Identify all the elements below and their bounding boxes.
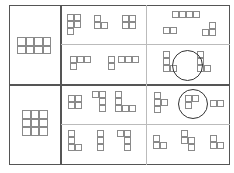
grid-cell xyxy=(154,92,161,99)
grid-cell xyxy=(160,142,167,149)
grid-cell xyxy=(188,144,195,151)
grid-cell xyxy=(186,11,193,18)
grid-cell xyxy=(124,137,131,144)
grid-cell xyxy=(31,127,40,136)
grid-cell xyxy=(97,137,104,144)
answer-circle xyxy=(172,50,203,81)
grid-cell xyxy=(77,56,84,63)
grid-cell xyxy=(34,46,43,55)
grid-cell xyxy=(108,56,115,63)
grid-cell xyxy=(115,105,122,112)
grid-cell xyxy=(97,144,104,151)
grid-cell xyxy=(210,100,217,107)
grid-cell xyxy=(67,28,74,35)
grid-cell xyxy=(70,63,77,70)
grid-cell xyxy=(202,29,209,36)
grid-cell xyxy=(68,130,75,137)
grid-cell xyxy=(97,130,104,137)
grid-cell xyxy=(75,102,82,109)
grid-cell xyxy=(193,11,200,18)
grid-cell xyxy=(99,91,106,98)
grid-cell xyxy=(84,56,91,63)
grid-cell xyxy=(125,56,132,63)
grid-cell xyxy=(22,127,31,136)
grid-cell xyxy=(39,119,48,128)
grid-cell xyxy=(34,37,43,46)
grid-cell xyxy=(39,110,48,119)
grid-cell xyxy=(217,100,224,107)
grid-cell xyxy=(92,91,99,98)
grid-cell xyxy=(74,21,81,28)
grid-cell xyxy=(26,46,35,55)
grid-cell xyxy=(68,95,75,102)
grid-cell xyxy=(94,22,101,29)
grid-cell xyxy=(210,142,217,149)
grid-cell xyxy=(99,98,106,105)
grid-cell xyxy=(101,22,108,29)
grid-cell xyxy=(170,27,177,34)
grid-cell xyxy=(68,144,75,151)
grid-cell xyxy=(117,130,124,137)
grid-cell xyxy=(163,65,170,72)
grid-cell xyxy=(129,22,136,29)
grid-cell xyxy=(204,65,211,72)
option-column-divider xyxy=(146,5,147,165)
grid-cell xyxy=(22,110,31,119)
grid-cell xyxy=(181,137,188,144)
grid-cell xyxy=(17,37,26,46)
grid-cell xyxy=(67,21,74,28)
grid-cell xyxy=(43,46,52,55)
grid-cell xyxy=(163,51,170,58)
grid-cell xyxy=(118,56,125,63)
grid-cell xyxy=(108,63,115,70)
grid-cell xyxy=(22,119,31,128)
grid-cell xyxy=(43,37,52,46)
grid-cell xyxy=(115,91,122,98)
grid-cell xyxy=(163,27,170,34)
grid-cell xyxy=(31,119,40,128)
grid-cell xyxy=(181,130,188,137)
grid-cell xyxy=(94,15,101,22)
grid-cell xyxy=(74,14,81,21)
grid-cell xyxy=(122,22,129,29)
grid-cell xyxy=(67,14,74,21)
grid-cell xyxy=(68,137,75,144)
grid-cell xyxy=(129,105,136,112)
grid-cell xyxy=(122,105,129,112)
bottom-subrow-divider xyxy=(61,124,230,125)
grid-cell xyxy=(124,144,131,151)
grid-cell xyxy=(217,142,224,149)
grid-cell xyxy=(39,127,48,136)
grid-cell xyxy=(99,105,106,112)
grid-cell xyxy=(209,29,216,36)
grid-cell xyxy=(188,137,195,144)
grid-cell xyxy=(17,46,26,55)
grid-cell xyxy=(75,95,82,102)
grid-cell xyxy=(209,22,216,29)
grid-cell xyxy=(153,142,160,149)
grid-cell xyxy=(153,135,160,142)
grid-cell xyxy=(31,110,40,119)
grid-cell xyxy=(172,11,179,18)
grid-cell xyxy=(210,135,217,142)
grid-cell xyxy=(68,102,75,109)
answer-circle xyxy=(178,89,208,119)
grid-cell xyxy=(161,99,168,106)
grid-cell xyxy=(115,98,122,105)
grid-cell xyxy=(132,56,139,63)
reference-column-divider xyxy=(60,5,62,165)
grid-cell xyxy=(154,99,161,106)
grid-cell xyxy=(163,58,170,65)
grid-cell xyxy=(179,11,186,18)
grid-cell xyxy=(70,56,77,63)
grid-cell xyxy=(154,106,161,113)
grid-cell xyxy=(129,15,136,22)
row-divider xyxy=(9,84,230,86)
grid-cell xyxy=(124,130,131,137)
grid-cell xyxy=(26,37,35,46)
grid-cell xyxy=(122,15,129,22)
grid-cell xyxy=(75,144,82,151)
top-subrow-divider xyxy=(61,44,230,45)
